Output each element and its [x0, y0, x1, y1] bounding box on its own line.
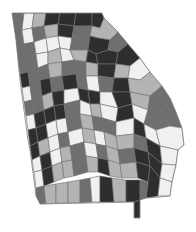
county-region [88, 90, 100, 104]
county-region [44, 24, 58, 38]
county-region [90, 176, 100, 202]
county-region [86, 76, 100, 92]
georgia-county-map [0, 0, 196, 232]
county-region [44, 184, 56, 204]
county-region [74, 13, 92, 26]
county-region [58, 24, 74, 38]
county-region [70, 36, 90, 50]
county-region [62, 60, 76, 76]
county-region [114, 64, 130, 78]
county-region [50, 76, 64, 92]
county-region [98, 76, 114, 92]
county-region [98, 64, 116, 78]
county-region [118, 148, 136, 164]
county-region [74, 60, 86, 76]
county-region [68, 180, 80, 203]
county-region [112, 178, 126, 202]
county-region [112, 78, 130, 92]
county-region [116, 134, 134, 150]
county-region [120, 162, 138, 178]
county-region [126, 180, 140, 202]
county-region [62, 74, 78, 90]
county-region [52, 90, 64, 106]
county-region [134, 200, 140, 218]
county-region [56, 182, 68, 203]
county-region [86, 156, 98, 172]
county-region [48, 62, 62, 78]
county-region [86, 62, 98, 76]
county-layer [12, 13, 184, 218]
